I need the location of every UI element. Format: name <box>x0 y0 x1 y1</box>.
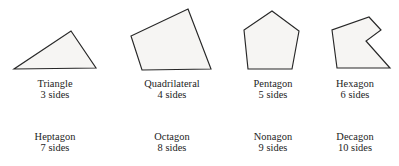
pentagon-name: Pentagon <box>223 78 323 89</box>
caption-nonagon: Nonagon 9 sides <box>223 131 323 153</box>
pentagon-shape <box>244 11 299 69</box>
quadrilateral-sides: 4 sides <box>122 89 222 100</box>
nonagon-name: Nonagon <box>223 131 323 142</box>
decagon-sides: 10 sides <box>315 142 395 153</box>
caption-pentagon: Pentagon 5 sides <box>223 78 323 100</box>
pentagon-sides: 5 sides <box>223 89 323 100</box>
nonagon-sides: 9 sides <box>223 142 323 153</box>
octagon-name: Octagon <box>122 131 222 142</box>
polygon-figure: Triangle 3 sides Quadrilateral 4 sides P… <box>0 0 399 166</box>
heptagon-name: Heptagon <box>5 131 105 142</box>
decagon-name: Decagon <box>315 131 395 142</box>
hexagon-sides: 6 sides <box>315 89 395 100</box>
triangle-sides: 3 sides <box>5 89 105 100</box>
caption-decagon: Decagon 10 sides <box>315 131 395 153</box>
octagon-sides: 8 sides <box>122 142 222 153</box>
quadrilateral-shape <box>131 9 211 70</box>
triangle-name: Triangle <box>5 78 105 89</box>
caption-triangle: Triangle 3 sides <box>5 78 105 100</box>
hexagon-name: Hexagon <box>315 78 395 89</box>
caption-heptagon: Heptagon 7 sides <box>5 131 105 153</box>
caption-octagon: Octagon 8 sides <box>122 131 222 153</box>
caption-quadrilateral: Quadrilateral 4 sides <box>122 78 222 100</box>
triangle-shape <box>14 31 96 69</box>
hexagon-shape <box>332 17 390 68</box>
heptagon-sides: 7 sides <box>5 142 105 153</box>
caption-hexagon: Hexagon 6 sides <box>315 78 395 100</box>
quadrilateral-name: Quadrilateral <box>122 78 222 89</box>
